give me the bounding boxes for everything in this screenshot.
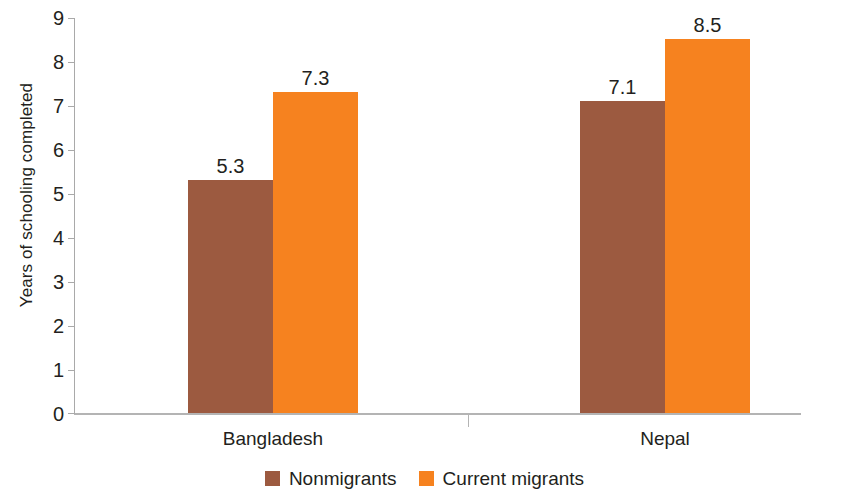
plot-area: 5.3 7.3 7.1 8.5 bbox=[0, 0, 849, 494]
chart-legend: Nonmigrants Current migrants bbox=[0, 468, 849, 489]
bar-bangladesh-nonmigrants[interactable] bbox=[188, 180, 273, 413]
legend-swatch-nonmigrants-icon bbox=[265, 471, 280, 486]
legend-label-current-migrants: Current migrants bbox=[443, 468, 585, 489]
bar-bangladesh-current-migrants[interactable] bbox=[273, 92, 358, 413]
bar-label-nepal-nonmigrants: 7.1 bbox=[580, 76, 665, 98]
bar-label-bangladesh-nonmigrants: 5.3 bbox=[188, 155, 273, 177]
legend-entry-current-migrants[interactable]: Current migrants bbox=[419, 468, 585, 489]
legend-label-nonmigrants: Nonmigrants bbox=[289, 468, 397, 489]
category-label-bangladesh: Bangladesh bbox=[188, 428, 358, 450]
legend-entry-nonmigrants[interactable]: Nonmigrants bbox=[265, 468, 397, 489]
legend-swatch-current-migrants-icon bbox=[419, 471, 434, 486]
bar-label-bangladesh-current-migrants: 7.3 bbox=[273, 67, 358, 89]
bar-chart: Years of schooling completed 9 8 7 6 5 4… bbox=[0, 0, 849, 494]
bar-label-nepal-current-migrants: 8.5 bbox=[665, 14, 750, 36]
bar-nepal-current-migrants[interactable] bbox=[665, 39, 750, 413]
category-label-nepal: Nepal bbox=[580, 428, 750, 450]
bar-nepal-nonmigrants[interactable] bbox=[580, 101, 665, 413]
